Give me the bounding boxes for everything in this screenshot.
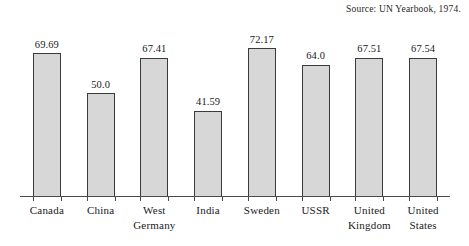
bar-rect[interactable] [409, 58, 437, 197]
x-axis-line [20, 196, 450, 197]
bar-value-label: 67.54 [411, 44, 435, 55]
bar-value-label: 69.69 [35, 40, 59, 51]
bar-group[interactable]: 67.41 [140, 44, 168, 196]
bar-value-label: 41.59 [196, 97, 220, 108]
bar-slot: 67.41 [128, 26, 182, 196]
bar-group[interactable]: 67.54 [409, 44, 437, 196]
x-axis-tick [248, 196, 249, 201]
category-label-line: Kingdom [343, 218, 397, 233]
category-label-line: United [396, 203, 450, 218]
category-label-line: China [74, 203, 128, 218]
bar-value-label: 67.51 [357, 44, 381, 55]
bar-value-label: 72.17 [250, 35, 274, 46]
category-label-sweden: Sweden [235, 203, 289, 218]
x-axis-tick [302, 196, 303, 201]
bar-rect[interactable] [355, 58, 383, 196]
bar-group[interactable]: 67.51 [355, 44, 383, 196]
x-axis-tick [168, 196, 169, 201]
bar-slot: 64.0 [289, 26, 343, 196]
x-axis-tick [437, 196, 438, 201]
bar-chart-figure: Source: UN Yearbook, 1974. 69.6950.067.4… [0, 0, 469, 246]
bar-value-label: 50.0 [91, 80, 110, 91]
x-axis-tick [222, 196, 223, 201]
x-axis-tick [115, 196, 116, 201]
category-label-india: India [181, 203, 235, 218]
bar-slot: 41.59 [181, 26, 235, 196]
bar-group[interactable]: 41.59 [194, 97, 222, 196]
bar-slot: 67.54 [396, 26, 450, 196]
category-label-united-states: UnitedStates [396, 203, 450, 232]
bar-slot: 69.69 [20, 26, 74, 196]
bar-value-label: 64.0 [306, 51, 325, 62]
bar-rect[interactable] [87, 93, 115, 196]
category-label-west-germany: WestGermany [128, 203, 182, 232]
category-label-line: USSR [289, 203, 343, 218]
category-label-line: Germany [128, 218, 182, 233]
bar-group[interactable]: 72.17 [248, 35, 276, 197]
bar-rect[interactable] [33, 53, 61, 196]
x-axis-tick [409, 196, 410, 201]
x-axis-tick [383, 196, 384, 201]
bar-slot: 50.0 [74, 26, 128, 196]
bar-group[interactable]: 69.69 [33, 40, 61, 196]
bar-slot: 72.17 [235, 26, 289, 196]
category-label-line: West [128, 203, 182, 218]
bar-rect[interactable] [194, 111, 222, 196]
x-axis-tick [194, 196, 195, 201]
x-axis-tick [355, 196, 356, 201]
category-label-line: United [343, 203, 397, 218]
x-axis-tick [61, 196, 62, 201]
bar-slot: 67.51 [343, 26, 397, 196]
category-label-china: China [74, 203, 128, 218]
category-label-line: Sweden [235, 203, 289, 218]
category-label-canada: Canada [20, 203, 74, 218]
category-axis-labels: CanadaChinaWestGermanyIndiaSwedenUSSRUni… [20, 203, 450, 245]
bar-rect[interactable] [248, 48, 276, 196]
bar-rect[interactable] [140, 58, 168, 196]
bar-rect[interactable] [302, 65, 330, 196]
x-axis-tick [330, 196, 331, 201]
category-label-line: States [396, 218, 450, 233]
category-label-line: India [181, 203, 235, 218]
x-axis-tick [87, 196, 88, 201]
category-label-ussr: USSR [289, 203, 343, 218]
category-label-line: Canada [20, 203, 74, 218]
source-note: Source: UN Yearbook, 1974. [346, 4, 461, 14]
plot-area: 69.6950.067.4141.5972.1764.067.5167.54 [20, 26, 450, 196]
bar-group[interactable]: 64.0 [302, 51, 330, 196]
bar-value-label: 67.41 [142, 44, 166, 55]
x-axis-tick [140, 196, 141, 201]
bar-group[interactable]: 50.0 [87, 80, 115, 196]
x-axis-tick [276, 196, 277, 201]
category-label-united-kingdom: UnitedKingdom [343, 203, 397, 232]
x-axis-tick [33, 196, 34, 201]
